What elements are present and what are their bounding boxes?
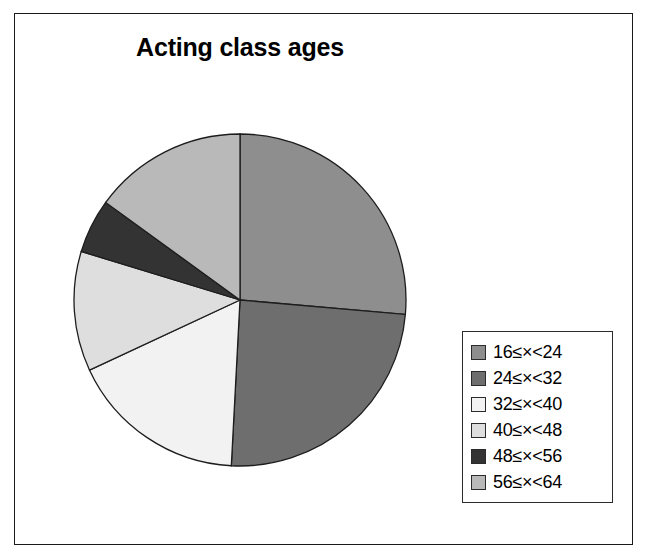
- legend-swatch-icon: [471, 449, 486, 464]
- legend: 16≤×<2424≤×<3232≤×<4040≤×<4848≤×<5656≤×<…: [462, 331, 613, 503]
- legend-swatch-icon: [471, 423, 486, 438]
- pie-slice: [240, 134, 406, 314]
- legend-item: 32≤×<40: [471, 391, 604, 417]
- legend-swatch-icon: [471, 371, 486, 386]
- legend-item: 48≤×<56: [471, 443, 604, 469]
- legend-item: 40≤×<48: [471, 417, 604, 443]
- pie-slice: [231, 300, 405, 466]
- pie-chart: [70, 130, 410, 470]
- legend-item-label: 16≤×<24: [493, 342, 562, 363]
- pie-slices: [74, 134, 406, 466]
- legend-swatch-icon: [471, 397, 486, 412]
- legend-item-label: 48≤×<56: [493, 446, 562, 467]
- pie-chart-figure: Acting class ages 16≤×<2424≤×<3232≤×<404…: [0, 0, 648, 560]
- legend-swatch-icon: [471, 475, 486, 490]
- legend-item-label: 40≤×<48: [493, 420, 562, 441]
- legend-item: 24≤×<32: [471, 365, 604, 391]
- legend-item-label: 32≤×<40: [493, 394, 562, 415]
- page-title: Acting class ages: [0, 33, 480, 62]
- legend-item: 16≤×<24: [471, 339, 604, 365]
- legend-item-label: 56≤×<64: [493, 472, 562, 493]
- legend-item: 56≤×<64: [471, 469, 604, 495]
- legend-swatch-icon: [471, 345, 486, 360]
- legend-item-label: 24≤×<32: [493, 368, 562, 389]
